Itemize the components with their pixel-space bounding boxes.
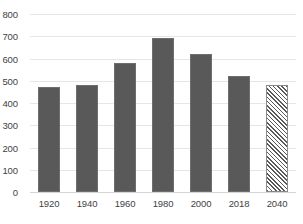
y-tick-label-200: 200 [0, 144, 18, 154]
x-tick-label-2000: 2000 [180, 199, 222, 209]
y-tick-label-800: 800 [0, 10, 18, 20]
x-tick-label-1960: 1960 [104, 199, 146, 209]
bar-slot-2040 [258, 14, 296, 192]
x-tick-label-2040: 2040 [256, 199, 298, 209]
bar-2040-forecast[interactable] [266, 85, 288, 192]
bar-1980[interactable] [152, 38, 174, 192]
bar-slot-1920 [30, 14, 68, 192]
x-tick-label-1980: 1980 [142, 199, 184, 209]
x-tick-label-1920: 1920 [28, 199, 70, 209]
bar-1960[interactable] [114, 63, 136, 192]
bar-2000[interactable] [190, 54, 212, 192]
y-tick-label-700: 700 [0, 32, 18, 42]
bar-slot-2018 [220, 14, 258, 192]
axis-line-x [30, 192, 296, 193]
bar-chart: 800 700 600 500 400 300 200 100 0 [0, 0, 303, 224]
bar-slot-1960 [106, 14, 144, 192]
bar-slot-2000 [182, 14, 220, 192]
y-tick-label-500: 500 [0, 77, 18, 87]
bar-2018[interactable] [228, 76, 250, 192]
bars-layer [30, 14, 296, 192]
y-tick-label-0: 0 [0, 188, 18, 198]
y-tick-label-600: 600 [0, 55, 18, 65]
y-tick-label-100: 100 [0, 166, 18, 176]
y-tick-label-300: 300 [0, 121, 18, 131]
bar-1920[interactable] [38, 87, 60, 192]
x-tick-label-2018: 2018 [218, 199, 260, 209]
y-tick-label-400: 400 [0, 99, 18, 109]
bar-slot-1980 [144, 14, 182, 192]
x-tick-label-1940: 1940 [66, 199, 108, 209]
bar-1940[interactable] [76, 85, 98, 192]
bar-slot-1940 [68, 14, 106, 192]
